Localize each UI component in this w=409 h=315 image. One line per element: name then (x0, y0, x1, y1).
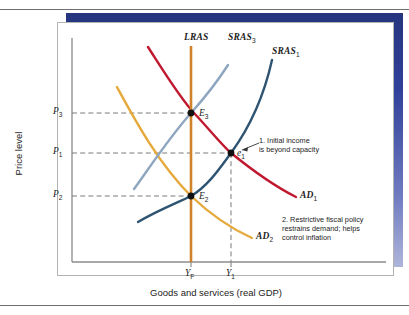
curve-ad2 (117, 87, 252, 238)
curve-label-lras: LRAS (184, 32, 209, 44)
point-label-e2: E2 (199, 191, 208, 203)
point-label-e3: E3 (199, 108, 208, 120)
curve-label-ad2: AD2 (256, 231, 273, 243)
curve-sras3 (134, 65, 228, 189)
y-tick-label-p2: P2 (53, 189, 62, 201)
point-marker-e2 (188, 193, 195, 200)
curve-label-sras3: SRAS3 (228, 32, 256, 44)
point-marker-e3 (188, 110, 195, 117)
x-axis-title: Goods and services (real GDP) (96, 287, 336, 298)
annotation-note-1: 1. Initial income is beyond capacity (259, 136, 319, 154)
point-label-e1: e1 (237, 148, 245, 160)
curve-ad1 (148, 47, 296, 197)
y-tick-label-p1: P1 (53, 146, 62, 158)
annotation-note-2: 2. Restrictive fiscal policy restrains d… (282, 215, 364, 243)
figure-root: Price level Goods and services (real GDP… (0, 0, 409, 315)
curve-label-sras1: SRAS1 (272, 46, 300, 58)
y-tick-label-p3: P3 (53, 106, 62, 118)
curve-label-ad1: AD1 (300, 190, 317, 202)
x-tick-label-y1: Y1 (226, 268, 235, 280)
x-tick-label-yf: YF (185, 268, 194, 280)
point-marker-e1 (228, 150, 235, 157)
y-axis-title: Price level (13, 114, 24, 194)
